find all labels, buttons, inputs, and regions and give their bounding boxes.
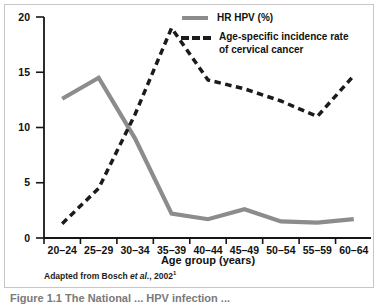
legend-label-hr-hpv: HR HPV (%) — [217, 11, 273, 24]
hr-hpv-line — [62, 78, 354, 223]
x-axis-title: Age group (years) — [44, 254, 372, 266]
y-tick-label: 0 — [24, 232, 30, 244]
figure-box: 0510152020–2425–2930–3435–3940–4445–4950… — [4, 4, 374, 288]
incidence-line — [62, 28, 354, 224]
y-tick-label: 5 — [24, 176, 30, 188]
source-note-prefix: Adapted from Bosch — [44, 271, 130, 281]
incidence-line-swatch — [181, 36, 211, 40]
legend-label-incidence-line1: Age-specific incidence rate — [219, 31, 349, 42]
hr-hpv-line-swatch — [182, 16, 208, 20]
source-note-reference-superscript: 1 — [173, 270, 176, 276]
cut-off-caption: Figure 1.1 The National ... HPV infectio… — [10, 292, 230, 304]
source-note-etal: et al. — [130, 271, 149, 281]
y-tick-label: 20 — [18, 11, 30, 23]
source-note: Adapted from Bosch et al., 20021 — [44, 270, 176, 281]
legend-label-incidence: Age-specific incidence rate of cervical … — [219, 31, 349, 56]
legend-label-incidence-line2: of cervical cancer — [219, 44, 304, 55]
chart-legend-row-hr-hpv: HR HPV (%) — [182, 11, 273, 24]
source-note-suffix: , 2002 — [149, 271, 173, 281]
y-tick-label: 15 — [18, 66, 30, 78]
y-tick-label: 10 — [18, 121, 30, 133]
chart-legend-row-incidence: Age-specific incidence rate of cervical … — [181, 31, 349, 56]
cut-off-caption-text: Figure 1.1 The National ... HPV infectio… — [10, 292, 230, 304]
